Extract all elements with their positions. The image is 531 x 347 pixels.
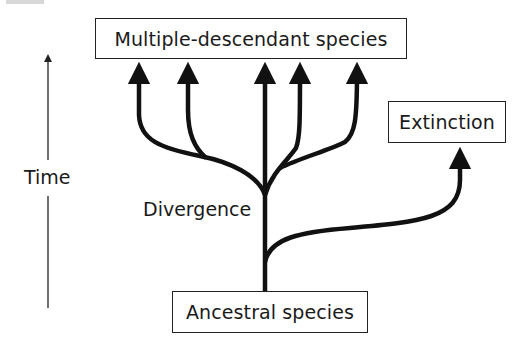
branch-descendant-4 (265, 73, 300, 195)
branch-descendant-2 (188, 73, 206, 158)
ancestral-species-box: Ancestral species (172, 291, 368, 333)
branch-extinction (265, 158, 460, 262)
descendant-species-label: Multiple-descendant species (114, 28, 387, 50)
time-axis-label: Time (24, 166, 71, 188)
extinction-box: Extinction (388, 101, 506, 143)
divergence-label: Divergence (143, 198, 251, 220)
extinction-label: Extinction (399, 111, 495, 133)
branch-descendant-1 (139, 73, 265, 195)
ancestral-species-label: Ancestral species (186, 301, 354, 323)
descendant-species-box: Multiple-descendant species (95, 18, 407, 59)
